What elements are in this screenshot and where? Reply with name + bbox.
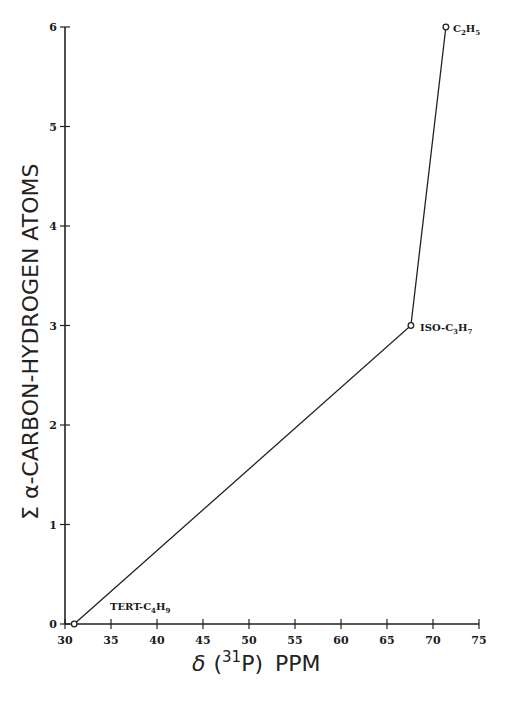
data-point-marker bbox=[443, 24, 449, 30]
x-tick-label: 60 bbox=[333, 634, 349, 647]
y-ticks: 0123456 bbox=[49, 21, 70, 631]
label-c2h5: C2H5 bbox=[453, 23, 480, 37]
label-tert-c4h9: TERT-C4H9 bbox=[110, 601, 170, 615]
x-tick-label: 70 bbox=[425, 634, 441, 647]
data-point-marker bbox=[408, 323, 414, 329]
x-tick-label: 50 bbox=[241, 634, 257, 647]
x-tick-label: 35 bbox=[103, 634, 118, 647]
y-tick-label: 2 bbox=[49, 419, 57, 432]
x-tick-label: 55 bbox=[287, 634, 302, 647]
x-tick-label: 30 bbox=[57, 634, 73, 647]
data-point-marker bbox=[71, 621, 77, 627]
y-tick-label: 1 bbox=[49, 519, 57, 532]
x-tick-label: 75 bbox=[471, 634, 486, 647]
x-tick-label: 45 bbox=[195, 634, 210, 647]
y-tick-label: 3 bbox=[49, 320, 57, 333]
data-line bbox=[74, 27, 446, 624]
data-markers bbox=[71, 24, 448, 627]
x-tick-label: 65 bbox=[379, 634, 394, 647]
chart: 30354045505560657075 0123456 C2H5 ISO-C3… bbox=[0, 0, 506, 705]
y-axis-title: Σ α-CARBON-HYDROGEN ATOMS bbox=[18, 164, 43, 520]
y-tick-label: 5 bbox=[49, 121, 57, 134]
y-tick-label: 0 bbox=[49, 618, 57, 631]
y-tick-label: 4 bbox=[49, 220, 57, 233]
x-axis-title: δ(31P)PPM bbox=[192, 648, 321, 676]
y-tick-label: 6 bbox=[49, 21, 57, 34]
label-iso-c3h7: ISO-C3H7 bbox=[420, 322, 472, 336]
x-tick-label: 40 bbox=[149, 634, 165, 647]
